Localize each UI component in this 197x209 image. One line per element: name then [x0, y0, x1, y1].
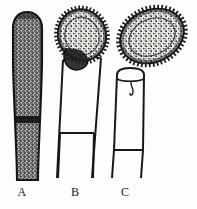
specimen-drawing [0, 0, 197, 209]
figure-label-a: A [13, 186, 31, 198]
figure-label-c: C [116, 186, 134, 198]
internal-mark-c [130, 81, 133, 95]
figure-illustration: A B C [0, 0, 197, 209]
figure-label-b: B [66, 186, 84, 198]
specimen-b [49, 1, 114, 178]
specimen-a [10, 10, 46, 185]
specimen-c [109, 0, 195, 178]
